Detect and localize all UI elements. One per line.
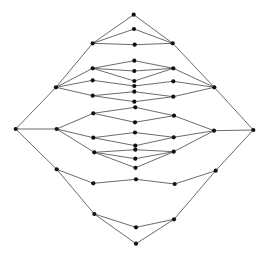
node-n2	[91, 41, 95, 45]
node-n16	[91, 94, 95, 98]
node-n12	[132, 84, 136, 88]
node-n23	[14, 127, 18, 131]
node-n22	[133, 120, 137, 124]
node-n14	[212, 85, 216, 89]
node-n0	[132, 13, 136, 17]
node-n30	[133, 144, 137, 148]
node-n5	[132, 59, 136, 63]
node-n44	[134, 242, 138, 246]
node-n27	[133, 130, 137, 134]
node-n43	[134, 225, 138, 229]
lattice-diagram	[0, 0, 265, 258]
node-n31	[133, 148, 137, 152]
node-n37	[214, 169, 218, 173]
node-n8	[132, 69, 136, 73]
node-n9	[91, 78, 95, 82]
node-n6	[91, 66, 95, 70]
node-n24	[55, 127, 59, 131]
node-n15	[132, 90, 136, 94]
node-n36	[55, 167, 59, 171]
node-n42	[172, 217, 176, 221]
node-n38	[134, 177, 138, 181]
node-n33	[172, 150, 176, 154]
node-n26	[251, 128, 255, 132]
node-n40	[173, 182, 177, 186]
node-n29	[172, 135, 176, 139]
node-n4	[133, 43, 137, 47]
node-n13	[54, 85, 58, 89]
node-n32	[92, 150, 96, 154]
node-n18	[132, 100, 136, 104]
node-n10	[132, 79, 136, 83]
node-n1	[132, 27, 136, 31]
node-n11	[171, 79, 175, 83]
node-n28	[91, 136, 95, 140]
node-n3	[171, 41, 175, 45]
node-n20	[91, 111, 95, 115]
node-n35	[133, 166, 137, 170]
node-n25	[212, 129, 216, 133]
node-n34	[133, 157, 137, 161]
node-n17	[171, 95, 175, 99]
node-n39	[91, 181, 95, 185]
node-n21	[172, 114, 176, 118]
node-n41	[92, 212, 96, 216]
node-n7	[171, 66, 175, 70]
node-n19	[133, 105, 137, 109]
